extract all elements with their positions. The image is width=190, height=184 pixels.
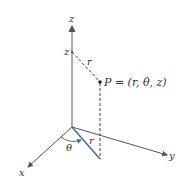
radial-projection-line xyxy=(72,127,100,159)
z-height-label: z xyxy=(63,46,70,57)
r-top-label: r xyxy=(87,56,93,67)
z-axis-label: z xyxy=(68,13,75,24)
theta-label: θ xyxy=(66,142,72,153)
y-axis xyxy=(72,127,167,155)
z-height-marker xyxy=(71,51,73,53)
horizontal-dashed-line xyxy=(72,52,100,82)
point-p-marker xyxy=(98,80,102,84)
x-axis-label: x xyxy=(19,167,25,178)
theta-arc-icon xyxy=(61,137,81,141)
cylindrical-coordinates-diagram: z z r P = (r, θ, z) r θ x y xyxy=(0,0,190,184)
y-axis-label: y xyxy=(168,150,175,161)
r-bottom-label: r xyxy=(89,135,95,146)
point-p-label: P = (r, θ, z) xyxy=(103,76,167,89)
